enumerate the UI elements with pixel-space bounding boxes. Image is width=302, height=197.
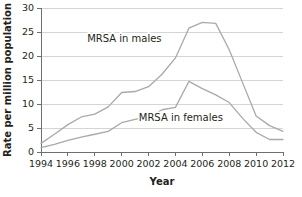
series-annotations-group: MRSA in malesMRSA in malesMRSA in female… bbox=[87, 33, 223, 124]
series-annotation-label: MRSA in females bbox=[139, 112, 223, 123]
x-tick-marks-group bbox=[41, 152, 283, 156]
y-tick-label-30: 30 bbox=[22, 2, 34, 13]
y-tick-labels-group: 051015202530 bbox=[22, 2, 34, 157]
series-line-mrsa-in-males bbox=[41, 22, 283, 143]
y-tick-label-20: 20 bbox=[22, 50, 34, 61]
series-annotation-label: MRSA in males bbox=[87, 33, 161, 44]
series-paths-group bbox=[41, 22, 283, 147]
y-tick-label-25: 25 bbox=[22, 26, 34, 37]
x-tick-label-1994: 1994 bbox=[29, 158, 53, 169]
y-tick-label-15: 15 bbox=[22, 74, 34, 85]
x-tick-label-2012: 2012 bbox=[271, 158, 295, 169]
y-tick-marks-group bbox=[37, 8, 41, 152]
x-tick-label-2010: 2010 bbox=[244, 158, 268, 169]
mrsa-rate-line-chart: 051015202530 199419961998200020022004200… bbox=[0, 0, 302, 197]
x-tick-label-2008: 2008 bbox=[217, 158, 241, 169]
x-tick-labels-group: 1994199619982000200220042006200820102012 bbox=[29, 158, 295, 169]
x-tick-label-2000: 2000 bbox=[110, 158, 134, 169]
x-tick-label-1998: 1998 bbox=[83, 158, 107, 169]
x-tick-label-2006: 2006 bbox=[190, 158, 214, 169]
x-tick-label-1996: 1996 bbox=[56, 158, 80, 169]
x-tick-label-2004: 2004 bbox=[163, 158, 187, 169]
x-axis-title: Year bbox=[149, 176, 175, 187]
y-axis-title: Rate per million population bbox=[2, 3, 13, 157]
y-tick-label-5: 5 bbox=[28, 122, 34, 133]
x-tick-label-2002: 2002 bbox=[136, 158, 160, 169]
chart-plot-area: 051015202530 199419961998200020022004200… bbox=[0, 0, 302, 197]
y-tick-label-0: 0 bbox=[28, 146, 34, 157]
y-tick-label-10: 10 bbox=[22, 98, 34, 109]
